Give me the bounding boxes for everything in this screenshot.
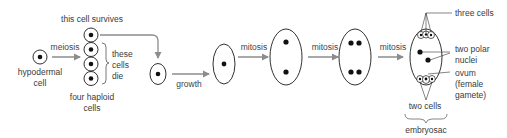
two-cells-label: two cells (409, 101, 442, 111)
polar-label-line1: two polar (455, 44, 490, 54)
dying-cells-bracket (102, 43, 109, 84)
growth-label: growth (176, 79, 202, 89)
ovum-label-line2: (female (455, 79, 484, 89)
polar-nucleus-2 (425, 57, 430, 62)
die-label-line1: these (112, 49, 133, 59)
four-nucleate-cell (339, 29, 371, 85)
mitosis-label-2: mitosis (312, 42, 338, 52)
four-haploid-cells (84, 28, 98, 86)
embryosac-label: embryosac (405, 125, 447, 135)
survives-label: this cell survives (61, 14, 123, 24)
embryo-sac-development-diagram: hypodermal cell meiosis this cell surviv… (0, 0, 507, 138)
egg-apparatus (417, 76, 436, 84)
polar-nucleus-1 (417, 49, 422, 54)
ovum-label-line3: gamete) (455, 90, 486, 100)
three-cells-label: three cells (455, 8, 494, 18)
ovum-label-line1: ovum (455, 68, 476, 78)
grown-cell (213, 44, 235, 84)
meiosis-label: meiosis (51, 42, 80, 52)
embryosac-brace (405, 114, 447, 123)
polar-label-line2: nuclei (455, 55, 477, 65)
hypodermal-label-line2: cell (34, 78, 47, 88)
die-label-line3: die (112, 71, 124, 81)
two-nucleate-cell (270, 29, 302, 85)
haploid-label-line2: cells (83, 103, 100, 113)
surviving-cell (150, 64, 166, 85)
die-label-line2: cells (112, 60, 129, 70)
mitosis-label-1: mitosis (241, 42, 267, 52)
embryosac (410, 29, 442, 85)
hypodermal-label-line1: hypodermal (18, 67, 63, 77)
haploid-label-line1: four haploid (70, 92, 115, 102)
hypodermal-cell (33, 50, 47, 64)
mitosis-label-3: mitosis (380, 42, 406, 52)
callout-lines (420, 13, 452, 100)
